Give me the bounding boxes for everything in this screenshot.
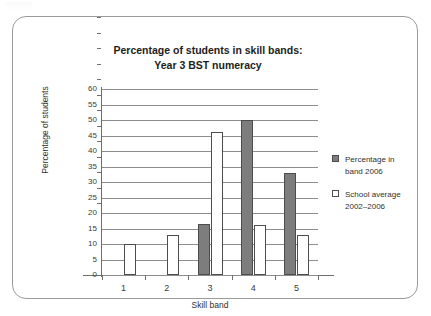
x-axis-tick-label-4: 4 [243,283,263,293]
x-axis-tick-mark [102,275,103,280]
y-axis-tick-label: 10 [81,240,97,248]
y-axis-tick-mark [97,33,101,34]
x-axis-tick-label-1: 1 [114,283,134,293]
chart-title: Percentage of students in skill bands: Y… [58,43,358,73]
bar-hollow-band-3 [211,132,223,275]
y-axis-tick-mark [97,172,101,173]
x-axis-tick-mark [188,275,189,280]
scan-artifact [6,2,32,11]
x-axis-title: Skill band [102,300,318,310]
y-axis-tick-mark [97,188,101,189]
y-axis-tick-mark [97,17,101,18]
y-axis-tick-label: 20 [81,209,97,217]
y-axis-tick-mark [97,141,101,142]
legend-entry-1: Percentage inband 2006 [332,154,427,177]
legend-swatch-filled [332,155,339,162]
legend-label-line2: 2002–2006 [345,201,427,213]
y-axis-tick-mark [97,203,101,204]
bar-hollow-band-5 [297,235,309,275]
y-axis-tick-label: 30 [81,178,97,186]
legend-label-line2: band 2006 [345,166,427,178]
y-axis-tick-mark [97,126,101,127]
y-axis-tick-mark [97,110,101,111]
legend-label-line1: Percentage in [345,154,427,166]
chart-title-line1: Percentage of students in skill bands: [113,44,302,56]
bar-filled-band-3 [198,224,210,275]
figure-frame: Percentage of students in skill bands: Y… [12,16,418,299]
x-axis-tick-label-2: 2 [157,283,177,293]
y-axis-tick-label: 35 [81,163,97,171]
y-axis-tick-label: 25 [81,194,97,202]
y-axis-tick-mark [97,64,101,65]
y-axis-tick-label: 15 [81,225,97,233]
legend-label-line1: School average [345,189,427,201]
y-axis-tick-label: 55 [81,101,97,109]
y-axis-tick-label: 0 [81,271,97,279]
gridline [102,105,318,106]
y-axis-tick-mark [97,79,101,80]
y-axis-tick-labels: 605550454035302520151050 [78,89,97,275]
bar-hollow-band-1 [124,244,136,275]
y-axis-tick-label: 60 [81,85,97,93]
legend-swatch-hollow [332,190,339,197]
x-axis-tick-mark [275,275,276,280]
plot-area [102,89,318,275]
gridline [102,120,318,121]
x-axis-tick-label-3: 3 [200,283,220,293]
chart-title-line2: Year 3 BST numeracy [58,58,358,73]
y-axis-tick-mark [97,95,101,96]
x-axis-tick-mark [318,275,319,280]
bar-hollow-band-2 [167,235,179,275]
gridline [102,89,318,90]
x-axis-tick-mark [145,275,146,280]
chart-legend: Percentage inband 2006School average2002… [332,154,427,224]
bar-filled-band-5 [284,173,296,275]
y-axis-tick-mark [97,157,101,158]
y-axis-tick-label: 5 [81,256,97,264]
y-axis-title: Percentage of students [40,70,50,190]
gridline [102,275,318,276]
x-axis-tick-label-5: 5 [286,283,306,293]
legend-entry-2: School average2002–2006 [332,189,427,212]
x-axis-tick-mark [232,275,233,280]
y-axis-tick-label: 40 [81,147,97,155]
y-axis-tick-mark [97,48,101,49]
bar-hollow-band-4 [254,225,266,275]
bar-filled-band-4 [241,120,253,275]
y-axis-tick-label: 45 [81,132,97,140]
y-axis-tick-label: 50 [81,116,97,124]
